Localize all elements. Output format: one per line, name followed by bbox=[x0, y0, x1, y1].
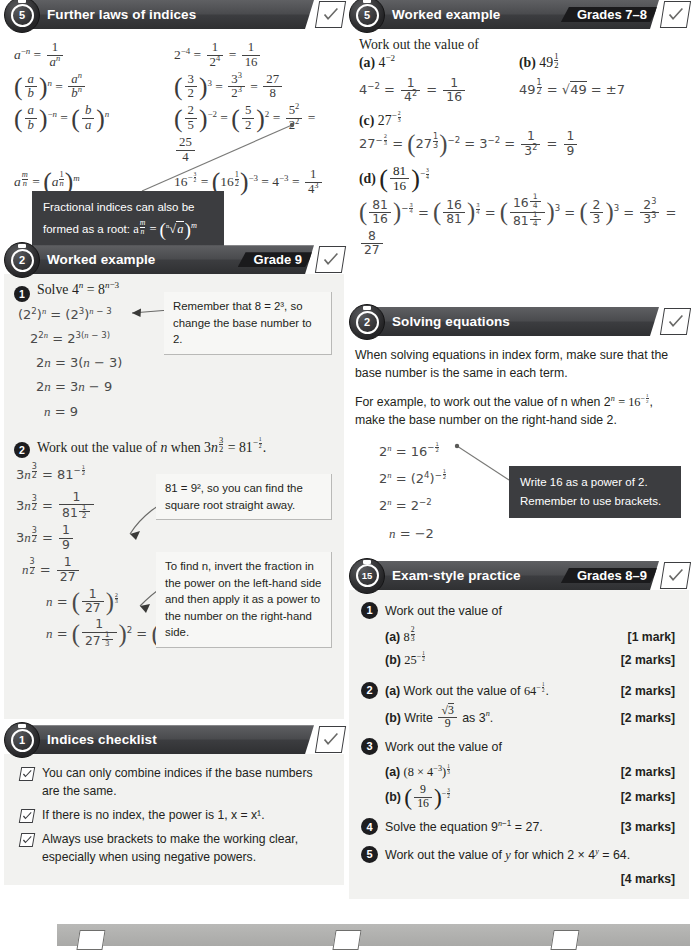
section-banner: 2 Worked example Grade 9 bbox=[17, 245, 344, 274]
rule-row-3: (ab)−n = (ba)n (25)−2 = (52)2 = 5222 = 2… bbox=[14, 102, 334, 165]
q1-line-3: 2n = 3(n − 3) bbox=[18, 351, 334, 375]
checklist-item: If there is no index, the power is 1, x … bbox=[20, 807, 332, 824]
stopwatch-number: 5 bbox=[364, 10, 370, 21]
subquestion-row: (a) 823 [1 mark] bbox=[385, 626, 675, 650]
part-c-question: (c) 27−23 bbox=[359, 111, 679, 129]
question-number: 5 bbox=[361, 846, 378, 863]
exam-subquestion: (a) (8 × 4−3)13 [2 marks] bbox=[361, 761, 675, 785]
checkbox-tick[interactable] bbox=[315, 726, 346, 753]
marks-label: [3 marks] bbox=[621, 820, 675, 834]
footer-checkbox-1[interactable] bbox=[76, 930, 105, 950]
callout-line-1: Fractional indices can also be bbox=[43, 198, 213, 217]
check-icon bbox=[19, 833, 35, 847]
footer-checkbox-3[interactable] bbox=[550, 930, 579, 950]
subquestion-row: (a) Work out the value of 64−12. [2 mark… bbox=[385, 680, 675, 704]
checkbox-tick[interactable] bbox=[660, 562, 691, 589]
question-stem: Work out the value of bbox=[385, 600, 675, 624]
step-number: 1 bbox=[14, 286, 30, 302]
part-b-question: (b) 4912 bbox=[519, 55, 679, 73]
checklist-text: You can only combine indices if the base… bbox=[42, 765, 332, 800]
check-icon bbox=[321, 731, 341, 748]
section-banner: 5 Further laws of indices bbox=[17, 0, 344, 29]
grade-badge: Grades 8–9 bbox=[561, 568, 659, 583]
marks-label: [2 marks] bbox=[621, 790, 675, 804]
checklist-item: You can only combine indices if the base… bbox=[20, 765, 332, 800]
check-icon bbox=[321, 6, 341, 23]
checkbox-tick[interactable] bbox=[660, 1, 691, 28]
section-title: Solving equations bbox=[392, 314, 510, 329]
checklist-body: You can only combine indices if the base… bbox=[4, 754, 344, 885]
question-stem: Work out the value of bbox=[385, 736, 675, 760]
part-d-working: (8116)−34 = (1681)34 = (16148114)3 = (23… bbox=[359, 196, 679, 258]
check-icon bbox=[666, 313, 686, 330]
question-number: 2 bbox=[361, 682, 378, 699]
exam-question: 1 Work out the value of bbox=[361, 600, 675, 624]
check-icon bbox=[19, 809, 35, 823]
rule-left-3: (ab)−n = (ba)n bbox=[14, 102, 174, 134]
callout-q1: Remember that 8 = 2³, so change the base… bbox=[164, 292, 332, 355]
checklist-text: Always use brackets to make the working … bbox=[42, 831, 332, 866]
exam-subquestion: (b) (916)−32 [2 marks] bbox=[361, 785, 675, 811]
exam-subquestion: (b) Write √39 as 3n. [2 marks] bbox=[361, 705, 675, 731]
section-worked-example-right: 5 Worked example Grades 7–8 Work out the… bbox=[349, 0, 689, 301]
question-stem-row: Work out the value of bbox=[385, 600, 675, 624]
q2-line-3: 3n32 = 19 bbox=[16, 522, 334, 554]
question-stem: Work out the value of y for which 2 × 4y… bbox=[385, 844, 675, 868]
check-icon bbox=[666, 567, 686, 584]
left-column: 5 Further laws of indices a−n = 1an bbox=[4, 0, 344, 891]
question-stem-row: Work out the value of bbox=[385, 736, 675, 760]
section-banner: 15 Exam-style practice Grades 8–9 bbox=[362, 561, 689, 590]
subquestion-row: (b) 25−12 [2 marks] bbox=[385, 649, 675, 673]
worked-example-right-body: Work out the value of (a) 4−2 (b) 4912 4… bbox=[349, 29, 689, 301]
q5-marks-row: [4 marks] bbox=[361, 869, 675, 887]
q1-line-4: 2n = 3n − 9 bbox=[18, 375, 334, 399]
exam-subquestion: (a) 823 [1 mark] bbox=[361, 626, 675, 650]
callout-solving: Write 16 as a power of 2. Remember to us… bbox=[509, 466, 681, 518]
stopwatch-number: 1 bbox=[19, 735, 25, 746]
part-b-working: 4912 = √49 = ±7 bbox=[519, 77, 679, 103]
rule-left-1: a−n = 1an bbox=[14, 39, 174, 71]
rule-left-2: (ab)n = anbn bbox=[14, 71, 174, 103]
question-stem: Solve the equation 9n−1 = 27. bbox=[385, 816, 613, 840]
section-further-laws: 5 Further laws of indices a−n = 1an bbox=[4, 0, 344, 239]
solving-equations-body: When solving equations in index form, ma… bbox=[349, 336, 689, 555]
checkbox-tick[interactable] bbox=[315, 246, 346, 273]
marks-label: [1 mark] bbox=[628, 630, 675, 644]
checkbox-tick[interactable] bbox=[660, 308, 691, 335]
solving-para-2: For example, to work out the value of n … bbox=[355, 393, 683, 430]
stopwatch-number: 2 bbox=[19, 255, 25, 266]
banner-bar: Further laws of indices bbox=[17, 0, 314, 29]
banner-bar: Exam-style practice Grades 8–9 bbox=[362, 561, 659, 590]
checklist-item: Always use brackets to make the working … bbox=[20, 831, 332, 866]
q1-line-5: n = 9 bbox=[18, 400, 334, 424]
subquestion-body: (b) 25−12 bbox=[385, 649, 613, 673]
stopwatch-icon: 15 bbox=[349, 558, 385, 594]
section-title: Exam-style practice bbox=[392, 568, 521, 583]
exam-question: 2 (a) Work out the value of 64−12. [2 ma… bbox=[361, 680, 675, 704]
stopwatch-icon: 2 bbox=[349, 304, 385, 340]
stopwatch-number: 5 bbox=[19, 10, 25, 21]
footer-checkbox-2[interactable] bbox=[332, 930, 361, 950]
section-banner: 5 Worked example Grades 7–8 bbox=[362, 0, 689, 29]
section-banner: 2 Solving equations bbox=[362, 307, 689, 336]
section-banner: 1 Indices checklist bbox=[17, 725, 344, 754]
part-d-question: (d) (8116)−34 bbox=[359, 165, 679, 194]
solving-line-4: n = −2 bbox=[379, 520, 683, 547]
question-number: 4 bbox=[361, 818, 378, 835]
checkbox-tick[interactable] bbox=[315, 1, 346, 28]
worked-step-2: 2 Work out the value of n when 3n32 = 81… bbox=[14, 438, 334, 458]
subquestion-body: (a) (8 × 4−3)13 bbox=[385, 761, 613, 785]
marks-label: [2 marks] bbox=[621, 684, 675, 698]
callout-fractional-indices: Fractional indices can also be formed as… bbox=[32, 191, 224, 249]
question-stem-row: Solve the equation 9n−1 = 27. [3 marks] bbox=[385, 816, 675, 840]
section-title: Worked example bbox=[47, 252, 155, 267]
part-c-working: 27−23 = (2713)−2 = 3−2 = 132 = 19 bbox=[359, 131, 679, 159]
rule-right-3: (25)−2 = (52)2 = 5222 = 254 bbox=[174, 102, 334, 165]
solving-line-1: 2n = 16−12 bbox=[379, 438, 683, 465]
solving-para-1: When solving equations in index form, ma… bbox=[355, 346, 683, 383]
subquestion-row: (a) (8 × 4−3)13 [2 marks] bbox=[385, 761, 675, 785]
subquestion-row: (b) Write √39 as 3n. [2 marks] bbox=[385, 705, 675, 731]
subquestion-body: (b) Write √39 as 3n. bbox=[385, 705, 613, 731]
further-laws-body: a−n = 1an 2−4 = 124 = 116 (ab)n = anbn (… bbox=[4, 29, 344, 239]
